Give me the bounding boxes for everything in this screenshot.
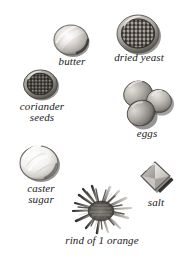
ingredient-plate: butter — [0, 0, 187, 266]
salt-label: salt — [130, 197, 182, 208]
caster-sugar-label: caster sugar — [9, 183, 73, 206]
rind-of-orange-label: rind of 1 orange — [44, 235, 160, 246]
grated-orange-rind-icon — [70, 183, 134, 235]
coriander-seeds-pile-icon — [20, 68, 64, 102]
ingredient-salt: salt — [134, 157, 178, 219]
ingredient-rind-of-orange: rind of 1 orange — [70, 183, 134, 253]
coriander-seeds-label: coriander seeds — [2, 101, 82, 124]
eggs-label: eggs — [120, 128, 174, 139]
dried-yeast-granules-icon — [113, 12, 165, 56]
butter-label: butter — [46, 56, 98, 67]
ingredient-caster-sugar: caster sugar — [17, 143, 65, 213]
ingredient-butter: butter — [50, 22, 94, 74]
ingredient-dried-yeast: dried yeast — [113, 12, 165, 70]
caster-sugar-mound-icon — [17, 143, 65, 185]
dried-yeast-label: dried yeast — [101, 52, 177, 63]
ingredient-coriander-seeds: coriander seeds — [20, 68, 64, 130]
butter-pat-disc-icon — [50, 22, 94, 58]
three-eggs-cluster-icon — [118, 78, 176, 130]
ingredient-eggs: eggs — [118, 78, 176, 146]
salt-crystal-cube-icon — [134, 157, 178, 199]
